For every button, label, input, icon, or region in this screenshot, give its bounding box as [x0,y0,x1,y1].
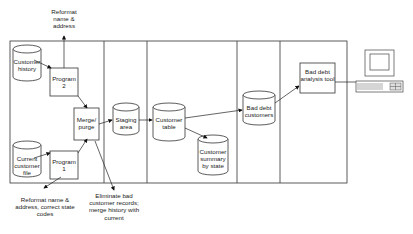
process-bad-debt-tool-label: Bad debt analysis tool [300,68,335,82]
store-current-customer-file-label: Current customer file [13,155,41,177]
store-staging-area-label: Staging area [113,116,139,130]
annotation-bottom-left: Reformat name & address, correct state c… [12,196,78,218]
store-customer-history-label: Customer history [13,58,41,72]
store-bad-debt-customers-label: Bad debt customers [243,104,275,118]
annotation-bottom-mid: Eliminate bad customer records; merge hi… [86,192,142,221]
computer-terminal-icon [356,50,403,92]
process-program2-label: Program 2 [50,75,78,89]
process-program1-label: Program 1 [50,158,78,172]
store-customer-summary-label: Customer summary by state [198,148,228,170]
process-merge-purge-label: Merge/ purge [74,116,99,130]
store-customer-table-label: Customer table [151,116,187,130]
annotation-top: Reformat name & address [46,8,82,30]
